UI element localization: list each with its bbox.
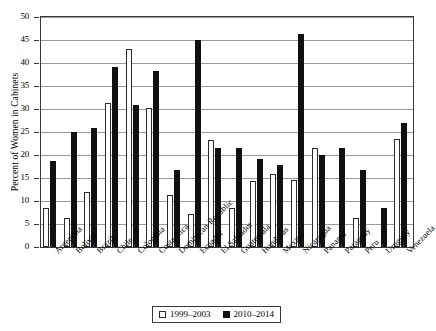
y-tick-label: 40 xyxy=(7,58,29,67)
y-tick-mark xyxy=(34,63,39,64)
bar-old xyxy=(43,208,49,247)
bar-new xyxy=(381,208,387,247)
y-tick-label: 15 xyxy=(7,173,29,182)
bar-group xyxy=(310,17,331,247)
bar-old xyxy=(146,108,152,247)
bar-group xyxy=(268,17,289,247)
bar-group xyxy=(165,17,186,247)
bar-group xyxy=(41,17,62,247)
y-tick-label: 5 xyxy=(7,219,29,228)
bars-layer xyxy=(41,17,413,247)
y-tick-mark xyxy=(34,132,39,133)
bar-group xyxy=(248,17,269,247)
legend-swatch-old xyxy=(159,311,166,318)
bar-new xyxy=(91,128,97,247)
bar-new xyxy=(195,40,201,247)
bar-group xyxy=(372,17,393,247)
y-tick-label: 20 xyxy=(7,150,29,159)
y-tick-label: 30 xyxy=(7,104,29,113)
y-tick-mark xyxy=(34,86,39,87)
legend-swatch-new xyxy=(223,311,230,318)
y-tick-mark xyxy=(34,201,39,202)
bar-group xyxy=(186,17,207,247)
legend-item: 1999–2003 xyxy=(159,309,211,320)
bar-group xyxy=(330,17,351,247)
bar-group xyxy=(124,17,145,247)
legend-label: 1999–2003 xyxy=(170,309,211,320)
bar-group xyxy=(82,17,103,247)
y-tick-label: 45 xyxy=(7,35,29,44)
y-tick-mark xyxy=(34,178,39,179)
bar-group xyxy=(144,17,165,247)
legend-item: 2010–2014 xyxy=(223,309,275,320)
bar-group xyxy=(103,17,124,247)
y-tick-label: 50 xyxy=(7,12,29,21)
bar-new xyxy=(153,71,159,247)
bar-old xyxy=(126,49,132,247)
bar-group xyxy=(392,17,413,247)
y-tick-mark xyxy=(34,17,39,18)
bar-group xyxy=(289,17,310,247)
y-tick-label: 10 xyxy=(7,196,29,205)
bar-new xyxy=(298,34,304,247)
y-tick-mark xyxy=(34,40,39,41)
y-tick-mark xyxy=(34,109,39,110)
bar-new xyxy=(50,161,56,247)
legend-label: 2010–2014 xyxy=(234,309,275,320)
bar-group xyxy=(62,17,83,247)
bar-group xyxy=(227,17,248,247)
chart-legend: 1999–20032010–2014 xyxy=(152,306,281,323)
y-tick-label: 25 xyxy=(7,127,29,136)
bar-new xyxy=(133,105,139,247)
bar-old xyxy=(105,103,111,247)
y-tick-mark xyxy=(34,224,39,225)
y-tick-label: 35 xyxy=(7,81,29,90)
bar-group xyxy=(351,17,372,247)
y-tick-label: 0 xyxy=(7,242,29,251)
y-tick-mark xyxy=(34,155,39,156)
bar-new xyxy=(112,67,118,247)
y-tick-mark xyxy=(34,247,39,248)
